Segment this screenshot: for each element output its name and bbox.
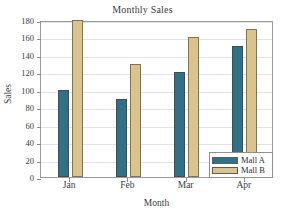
legend-label: Mall B: [241, 166, 265, 175]
chart-title: Monthly Sales: [0, 4, 285, 15]
x-axis-title: Month: [40, 198, 273, 208]
x-axis-tick-labels: JanFebMarApr: [40, 180, 273, 194]
y-axis-tick-label: 180: [21, 16, 34, 26]
y-axis-tick-label: 100: [21, 86, 34, 96]
y-axis-tick-label: 20: [26, 156, 35, 166]
legend-swatch-icon: [212, 157, 238, 164]
x-axis-tick: [186, 178, 187, 182]
y-axis-tick-label: 140: [21, 51, 34, 61]
bar-jan-mall-b: [72, 20, 83, 177]
chart-legend[interactable]: Mall AMall B: [209, 152, 273, 178]
y-axis-tick-label: 80: [26, 103, 35, 113]
bar-jan-mall-a: [58, 90, 69, 177]
legend-label: Mall A: [241, 156, 265, 165]
x-axis-tick: [244, 178, 245, 182]
bar-mar-mall-b: [188, 37, 199, 177]
y-axis-tick-label: 60: [26, 121, 35, 131]
x-axis-tick: [69, 178, 70, 182]
bar-feb-mall-a: [116, 99, 127, 178]
bar-feb-mall-b: [130, 64, 141, 177]
x-axis-tick: [127, 178, 128, 182]
legend-item[interactable]: Mall A: [212, 155, 270, 165]
y-axis-tick-label: 40: [26, 138, 35, 148]
y-axis-tick-label: 0: [30, 173, 34, 183]
bar-mar-mall-a: [174, 72, 185, 177]
y-axis-tick-label: 160: [21, 33, 34, 43]
y-axis-tick-label: 120: [21, 68, 34, 78]
legend-swatch-icon: [212, 167, 238, 174]
chart-figure: Monthly Sales Sales 02040608010012014016…: [0, 0, 285, 215]
y-axis-tick-labels: 020406080100120140160180: [0, 21, 37, 178]
legend-item[interactable]: Mall B: [212, 165, 270, 175]
